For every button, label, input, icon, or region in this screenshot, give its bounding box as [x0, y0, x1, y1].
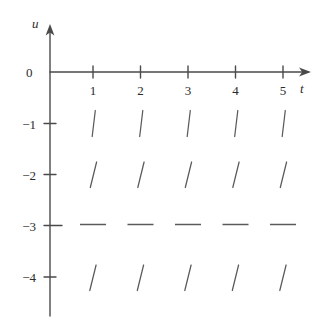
x-tick-label-5: 5	[280, 84, 287, 97]
slope-mark	[280, 162, 286, 188]
slope-mark	[137, 265, 143, 291]
y-tick-label-minus4: −4	[16, 271, 36, 284]
slope-mark	[90, 265, 96, 291]
slope-mark	[235, 111, 238, 137]
y-tick-label-minus1: −1	[16, 117, 36, 130]
slope-mark	[92, 111, 95, 137]
slope-row-minus1	[92, 111, 285, 137]
origin-tick-label: 0	[26, 66, 33, 79]
y-tick-label-minus3: −3	[16, 219, 36, 232]
slope-row-minus4	[90, 265, 286, 291]
axes-group	[50, 28, 305, 316]
slope-mark	[185, 265, 191, 291]
slope-mark	[233, 162, 239, 188]
x-tick-label-1: 1	[90, 84, 97, 97]
slope-mark	[138, 162, 144, 188]
x-tick-label-4: 4	[232, 84, 239, 97]
x-tick-label-3: 3	[185, 84, 192, 97]
slope-mark	[185, 162, 191, 188]
slope-mark	[140, 111, 143, 137]
plot-canvas	[0, 0, 319, 334]
slope-mark	[232, 265, 238, 291]
slope-row-minus2	[90, 162, 286, 188]
slope-mark	[187, 111, 190, 137]
axis-arrowheads	[46, 24, 311, 77]
slope-field-figure: u t 0 1 2 3 4 5 −1 −2 −3 −4	[0, 0, 319, 334]
t-axis-label: t	[300, 82, 304, 95]
y-tick-label-minus2: −2	[16, 168, 36, 181]
slope-mark	[280, 265, 286, 291]
u-axis-label: u	[32, 17, 39, 30]
y-axis-ticks	[44, 124, 62, 278]
slope-mark	[282, 111, 285, 137]
x-tick-label-2: 2	[137, 84, 144, 97]
slope-mark	[90, 162, 96, 188]
